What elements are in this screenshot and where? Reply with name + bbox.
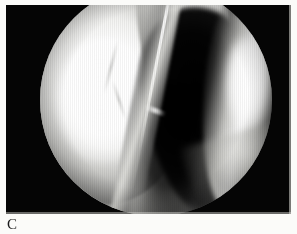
plate-edge-right <box>289 5 291 214</box>
endoscope-circular-field <box>40 5 272 214</box>
figure-panel-label: C <box>7 216 17 233</box>
figure-panel: C <box>0 0 297 234</box>
arthroscopic-photograph <box>6 5 291 214</box>
plate-edge-bottom <box>6 212 291 214</box>
scope-vignette <box>40 5 272 214</box>
